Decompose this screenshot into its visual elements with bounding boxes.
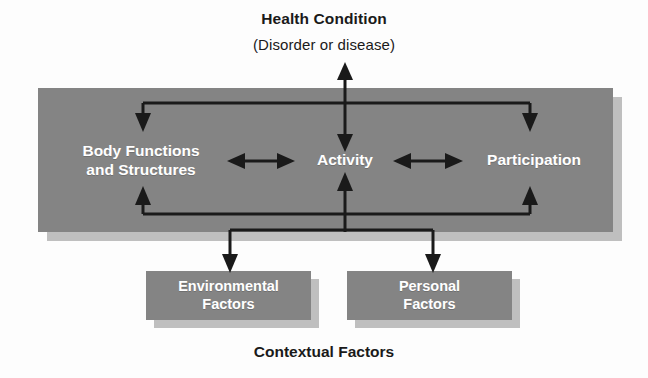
environmental-factors-line2: Factors — [202, 296, 254, 312]
environmental-factors-label: Environmental Factors — [178, 278, 279, 312]
body-functions-and-structures-label: Body Functions and Structures — [52, 142, 230, 179]
activity-label: Activity — [290, 151, 400, 170]
personal-factors-line2: Factors — [403, 296, 455, 312]
environmental-factors-box: Environmental Factors — [146, 271, 311, 320]
body-functions-line1: Body Functions — [82, 142, 199, 159]
icf-diagram: Health Condition (Disorder or disease) B… — [0, 0, 648, 378]
personal-factors-label: Personal Factors — [399, 278, 460, 312]
environmental-factors-line1: Environmental — [178, 278, 279, 294]
health-condition-subtitle: (Disorder or disease) — [0, 36, 648, 53]
personal-factors-line1: Personal — [399, 278, 460, 294]
personal-factors-box: Personal Factors — [347, 271, 512, 320]
contextual-factors-label: Contextual Factors — [0, 343, 648, 361]
health-condition-title: Health Condition — [0, 10, 648, 28]
body-functions-line2: and Structures — [86, 161, 195, 178]
participation-label: Participation — [460, 151, 608, 170]
